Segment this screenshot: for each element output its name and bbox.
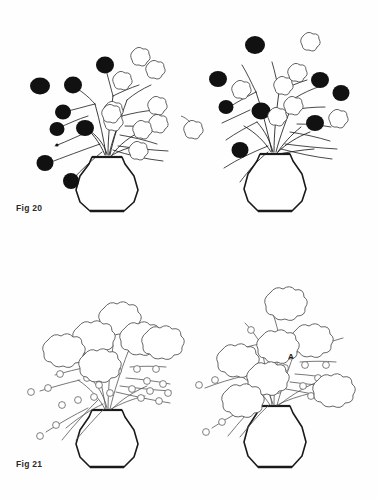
bud xyxy=(28,389,35,396)
dark-flower xyxy=(232,142,249,158)
bud xyxy=(37,433,44,440)
bud xyxy=(156,398,163,405)
dark-flower xyxy=(64,77,82,94)
bud xyxy=(160,381,167,388)
bud xyxy=(323,362,330,369)
bud xyxy=(203,429,210,436)
dark-flower xyxy=(63,173,79,189)
bud xyxy=(308,393,315,400)
bud xyxy=(59,402,66,409)
bud xyxy=(129,386,136,393)
figure-label-fig20: Fig 20 xyxy=(16,203,42,213)
bud xyxy=(300,383,307,390)
bud xyxy=(248,327,255,334)
bud xyxy=(45,385,52,392)
bud xyxy=(96,382,103,389)
bud xyxy=(302,362,309,369)
dark-flower xyxy=(306,115,324,131)
bud xyxy=(153,366,160,373)
dark-flower xyxy=(333,85,350,101)
figure-page xyxy=(0,0,378,499)
dark-flower xyxy=(50,122,65,136)
dark-flower xyxy=(37,155,54,171)
bud xyxy=(75,397,82,404)
dark-flower xyxy=(96,57,114,74)
bud xyxy=(134,366,141,373)
bud xyxy=(107,390,114,397)
bud xyxy=(147,388,154,395)
dark-flower xyxy=(76,120,94,136)
bud xyxy=(212,377,219,384)
dark-flower xyxy=(30,78,50,95)
bud xyxy=(219,419,226,426)
bud xyxy=(138,395,145,402)
ink-dot xyxy=(55,143,58,146)
bud xyxy=(57,371,64,378)
bud xyxy=(53,422,60,429)
dark-flower xyxy=(219,100,234,114)
dark-flower xyxy=(311,72,329,88)
bud xyxy=(165,390,172,397)
dark-flower xyxy=(55,105,71,120)
dark-flower xyxy=(245,36,265,54)
line-drawing-canvas xyxy=(0,0,378,499)
bud xyxy=(144,378,151,385)
bud xyxy=(196,382,203,389)
figure-label-fig21: Fig 21 xyxy=(16,459,42,469)
bud xyxy=(91,394,98,401)
annotation-label-a: A xyxy=(288,352,294,361)
dark-flower xyxy=(209,71,227,87)
